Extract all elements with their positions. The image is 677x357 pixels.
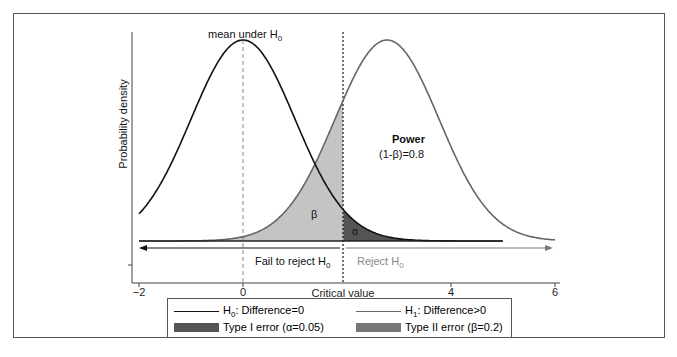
legend-item-type2: Type II error (β=0.2) <box>356 321 503 333</box>
power-label: Power <box>392 133 425 145</box>
type1-swatch <box>174 323 219 332</box>
legend-item-h1: H1: Difference>0 <box>356 304 486 319</box>
x-tick-label: 4 <box>448 286 454 298</box>
y-axis-label: Probability density <box>117 79 129 169</box>
h1-curve <box>139 40 555 241</box>
h0-line-swatch <box>174 311 219 312</box>
x-tick-label: −2 <box>133 286 146 298</box>
legend-item-h0: H0: Difference=0 <box>174 304 304 319</box>
mean-under-h0-label: mean under H0 <box>208 28 282 43</box>
legend: H0: Difference=0 H1: Difference>0 Type I… <box>167 298 512 338</box>
fail-to-reject-label: Fail to reject H0 <box>255 255 330 270</box>
beta-label: β <box>311 208 317 220</box>
type1-error-area <box>343 210 503 241</box>
h1-line-swatch <box>356 311 401 312</box>
legend-item-type1: Type I error (α=0.05) <box>174 321 324 333</box>
power-value: (1-β)=0.8 <box>379 148 424 160</box>
reject-label: Reject H0 <box>357 255 404 270</box>
alpha-label: α <box>352 226 358 237</box>
x-tick-label: 6 <box>552 286 558 298</box>
type2-swatch <box>356 323 401 332</box>
x-tick-label: 0 <box>240 286 246 298</box>
